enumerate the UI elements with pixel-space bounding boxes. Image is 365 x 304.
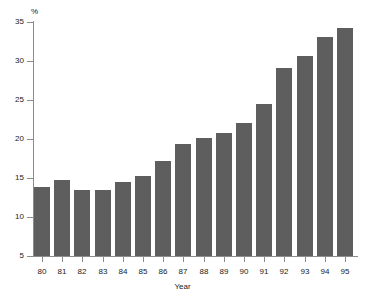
- bar: [216, 133, 232, 256]
- bar: [95, 190, 111, 256]
- x-axis-tick: [244, 257, 245, 262]
- bar: [276, 68, 292, 256]
- bar-chart: % 5101520253035 808182838485868788899091…: [0, 0, 365, 304]
- x-axis-tick: [42, 257, 43, 262]
- x-axis-tick: [163, 257, 164, 262]
- bar: [236, 123, 252, 256]
- bar: [155, 161, 171, 256]
- x-axis-line: [28, 256, 358, 257]
- y-axis-tick: [27, 256, 33, 257]
- bar: [297, 56, 313, 256]
- bar: [337, 28, 353, 256]
- x-axis-tick: [123, 257, 124, 262]
- bar: [135, 176, 151, 256]
- x-axis-tick: [103, 257, 104, 262]
- bar: [256, 104, 272, 256]
- x-axis-title: Year: [0, 283, 365, 291]
- x-axis-tick: [284, 257, 285, 262]
- bar: [175, 144, 191, 256]
- bar: [34, 187, 50, 256]
- x-axis-tick: [62, 257, 63, 262]
- bar: [54, 180, 70, 256]
- x-axis-tick: [345, 257, 346, 262]
- x-axis-tick: [305, 257, 306, 262]
- x-axis-tick: [183, 257, 184, 262]
- bar: [317, 37, 333, 256]
- x-axis-tick-label: 95: [333, 268, 357, 276]
- x-axis-tick: [82, 257, 83, 262]
- bar: [196, 138, 212, 256]
- x-axis-tick: [264, 257, 265, 262]
- x-axis-tick: [325, 257, 326, 262]
- bar: [74, 190, 90, 256]
- x-axis-tick: [204, 257, 205, 262]
- bar: [115, 182, 131, 256]
- bars-layer: [0, 0, 365, 256]
- x-axis-tick: [224, 257, 225, 262]
- x-axis-tick: [143, 257, 144, 262]
